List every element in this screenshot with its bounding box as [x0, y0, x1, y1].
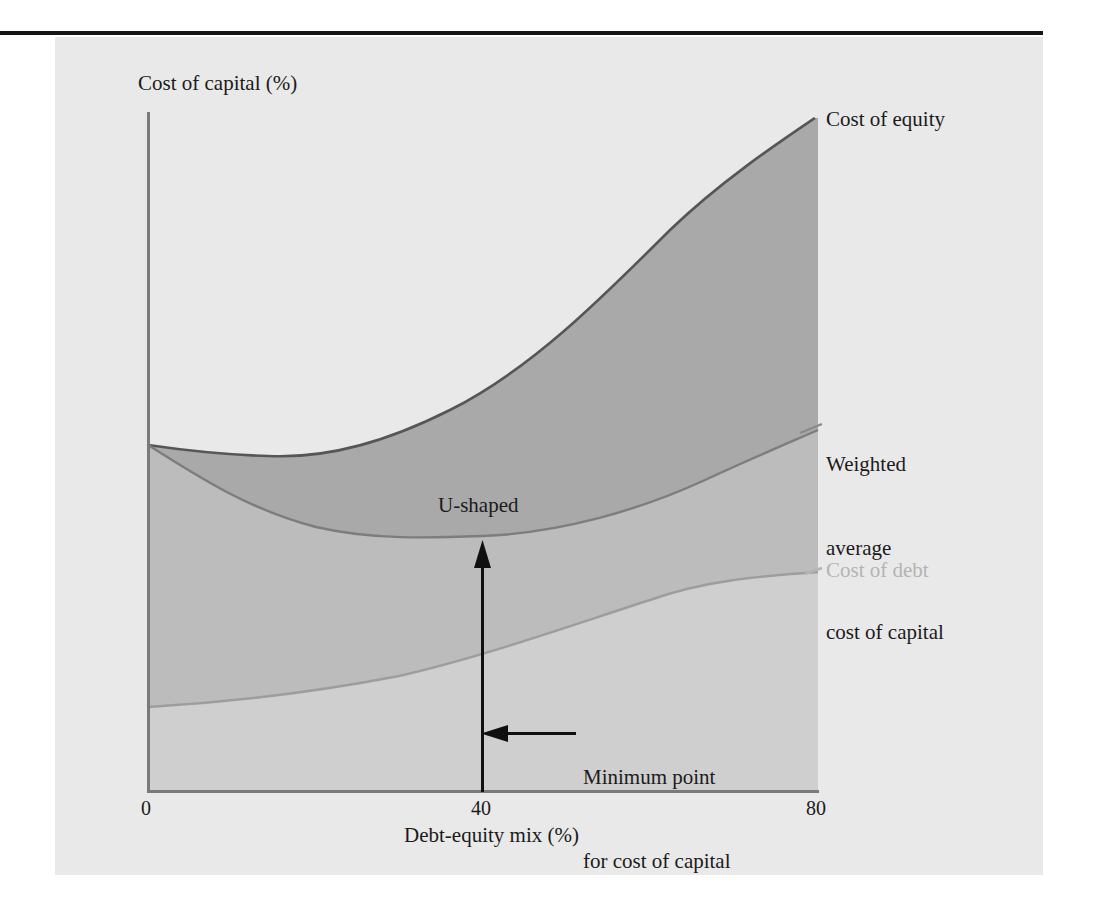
y-axis-label: Cost of capital (%) — [138, 70, 297, 96]
x-tick-label-80: 80 — [806, 797, 826, 820]
x-tick-label-40: 40 — [471, 797, 491, 820]
figure-container: Cost of capital (%) Debt-equity mix (%) … — [0, 0, 1096, 924]
cost-of-equity-label: Cost of equity — [826, 106, 945, 132]
u-shaped-annotation: U-shaped — [438, 492, 518, 518]
minimum-point-line-2: for cost of capital — [583, 847, 731, 875]
x-tick-label-0: 0 — [141, 797, 151, 820]
cost-of-debt-label: Cost of debt — [826, 557, 929, 583]
x-axis-label: Debt-equity mix (%) — [404, 822, 579, 848]
minimum-point-annotation: Minimum point for cost of capital — [583, 707, 731, 924]
wacc-label: Weighted average cost of capital — [826, 394, 944, 702]
wacc-label-line-1: Weighted — [826, 450, 944, 478]
annotation-layer: Cost of capital (%) Debt-equity mix (%) … — [0, 0, 1096, 924]
minimum-point-line-1: Minimum point — [583, 763, 731, 791]
wacc-label-line-3: cost of capital — [826, 618, 944, 646]
